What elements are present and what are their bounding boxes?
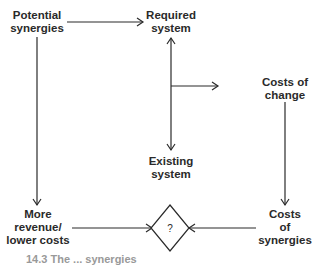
decision-label: ? [160, 222, 180, 235]
node-more-revenue: More revenue/ lower costs [2, 208, 74, 247]
node-potential-synergies: Potential synergies [4, 9, 70, 35]
node-required-system: Required system [140, 9, 202, 35]
node-costs-of-synergies: Costs of synergies [252, 208, 318, 247]
node-costs-of-change: Costs of change [252, 76, 318, 102]
node-existing-system: Existing system [140, 155, 202, 181]
figure-caption: 14.3 The ... synergies [26, 253, 137, 265]
